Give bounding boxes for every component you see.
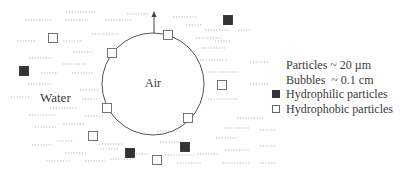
hydrophobic-particle [89,132,98,141]
bubble-size-text: Bubbles ~ 0.1 cm [286,73,374,88]
hydrophilic-particle [224,16,233,25]
filled-square-icon [272,90,280,98]
hydrophobic-particle [49,34,58,43]
hydrophobic-particle [218,81,227,90]
legend: Particles ~ 20 µm Bubbles ~ 0.1 cm Hydro… [272,58,393,116]
hydrophobic-particle [108,49,117,58]
legend-item-hydrophilic: Hydrophilic particles [272,87,393,102]
legend-particle-size: Particles ~ 20 µm [272,58,393,73]
particle-size-text: Particles ~ 20 µm [286,58,371,73]
legend-item-hydrophobic: Hydrophobic particles [272,102,393,117]
hydrophobic-particle [153,156,162,165]
water-label: Water [40,90,71,106]
hydrophobic-particle [184,114,193,123]
legend-label-hydrophobic: Hydrophobic particles [286,102,393,117]
legend-label-hydrophilic: Hydrophilic particles [286,87,388,102]
hydrophobic-particle [164,31,173,40]
hydrophilic-particle [181,143,190,152]
rise-arrow-icon [152,11,157,33]
legend-bubble-size: Bubbles ~ 0.1 cm [272,73,393,88]
hydrophobic-particle [103,104,112,113]
hydrophilic-particle [126,149,135,158]
hydrophobic-particles [49,31,227,165]
empty-square-icon [272,105,280,113]
hydrophilic-particle [20,67,29,76]
air-label: Air [145,76,161,91]
